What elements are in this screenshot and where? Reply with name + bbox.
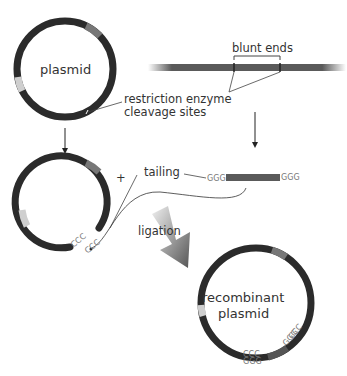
plus-sign: + — [116, 172, 126, 185]
tailing-pointer-right — [184, 174, 206, 178]
tailing-label: tailing — [144, 166, 180, 179]
recombinant-label-line1: recombinant — [202, 291, 284, 304]
recombinant-label-line2: plasmid — [218, 307, 269, 320]
blunt-ends-label: blunt ends — [232, 42, 293, 55]
recombinant-ggg-1: GGG — [243, 357, 262, 366]
arrow-down-left — [62, 128, 68, 154]
plasmid-label: plasmid — [40, 63, 91, 76]
diagram-canvas — [0, 0, 347, 376]
fragment-left-tail: GGG — [207, 174, 226, 183]
dna-fragment — [226, 174, 280, 181]
opened-plasmid-ring — [15, 156, 107, 248]
ligation-label: ligation — [138, 225, 181, 238]
restriction-sites-label-line2: cleavage sites — [124, 106, 206, 119]
arrow-down-right — [252, 112, 258, 148]
fragment-right-tail: GGG — [281, 173, 300, 182]
